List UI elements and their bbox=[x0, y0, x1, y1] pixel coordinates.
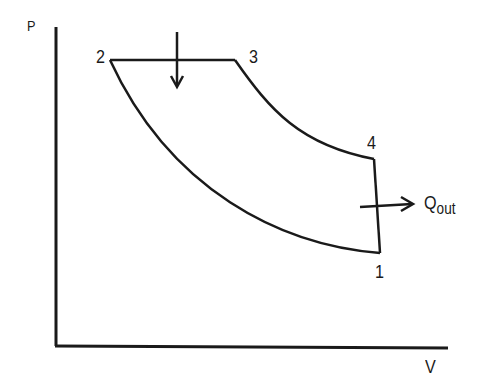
x-axis-label: V bbox=[425, 357, 436, 376]
process-3-4 bbox=[235, 60, 374, 159]
cycle-path bbox=[110, 60, 380, 253]
point-label-3: 3 bbox=[249, 47, 258, 66]
x-axis bbox=[55, 346, 448, 348]
point-label-1: 1 bbox=[375, 262, 384, 281]
process-1-2 bbox=[110, 60, 380, 253]
heat-out-label: Qout bbox=[424, 193, 455, 212]
point-label-4: 4 bbox=[367, 133, 376, 152]
point-label-2: 2 bbox=[96, 47, 105, 66]
axes bbox=[55, 27, 448, 348]
heat-out-arrow-icon bbox=[360, 197, 413, 211]
heat-out-main: Q bbox=[424, 192, 437, 213]
heat-out-subscript: out bbox=[437, 200, 456, 217]
pv-diagram bbox=[0, 0, 488, 390]
y-axis-label: P bbox=[27, 18, 36, 33]
